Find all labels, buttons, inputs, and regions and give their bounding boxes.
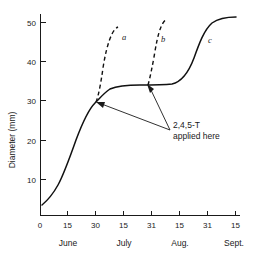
- x-axis-ticks: [68, 211, 236, 216]
- chart-figure: Diameter (mm) 50 40 30 20 10: [0, 0, 253, 263]
- annotation-text-line1: 2,4,5-T: [173, 120, 200, 130]
- y-axis-ticks: [41, 23, 46, 180]
- curve-label-a: a: [122, 32, 126, 42]
- x-tick-label-6: 31: [203, 221, 212, 230]
- y-tick-label-20: 20: [27, 137, 36, 146]
- curve-b-dashed: [148, 19, 167, 85]
- y-tick-label-40: 40: [27, 58, 36, 67]
- curve-label-b: b: [161, 34, 165, 44]
- growth-curve-chart: Diameter (mm) 50 40 30 20 10: [0, 0, 253, 263]
- y-axis-tick-labels: 50 40 30 20 10: [27, 19, 36, 185]
- month-label-june: June: [59, 238, 78, 248]
- x-tick-label-2: 30: [91, 221, 100, 230]
- month-label-sept: Sept.: [224, 238, 244, 248]
- x-axis-month-labels: June July Aug. Sept.: [59, 238, 244, 248]
- x-tick-label-3: 15: [119, 221, 128, 230]
- x-axis-tick-labels: 0 15 30 15 31 15 31 15: [38, 221, 241, 230]
- x-tick-label-origin: 0: [38, 221, 43, 230]
- x-tick-label-1: 15: [63, 221, 72, 230]
- y-axis-title: Diameter (mm): [7, 112, 17, 169]
- x-tick-label-4: 31: [147, 221, 156, 230]
- curve-c-solid: [42, 17, 236, 205]
- y-tick-label-50: 50: [27, 19, 36, 28]
- month-label-aug: Aug.: [171, 238, 189, 248]
- curve-label-c: c: [208, 35, 212, 45]
- y-tick-label-10: 10: [27, 176, 36, 185]
- annotation-text-line2: applied here: [173, 131, 220, 141]
- month-label-july: July: [116, 238, 132, 248]
- y-tick-label-30: 30: [27, 97, 36, 106]
- x-tick-label-5: 15: [175, 221, 184, 230]
- arrowhead-first-application: [96, 102, 105, 108]
- x-tick-label-7: 15: [231, 221, 240, 230]
